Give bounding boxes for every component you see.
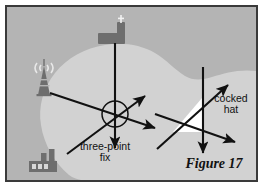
navigation-diagram — [7, 7, 256, 180]
figure-frame: three-point fix cocked hat Figure 17 — [5, 5, 258, 182]
figure-root: three-point fix cocked hat Figure 17 — [0, 0, 263, 187]
